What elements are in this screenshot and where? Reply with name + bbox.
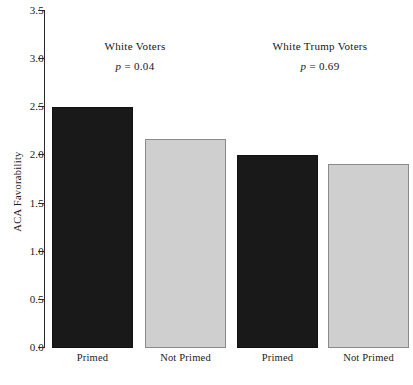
- group-pvalue-white-voters: p = 0.04: [75, 60, 195, 73]
- group-pvalue-white-trump-voters: p = 0.69: [255, 60, 385, 73]
- bar-white-trump-voters-primed: [237, 155, 318, 348]
- bar-label-white-trump-voters-primed: Primed: [237, 352, 318, 364]
- p-text-white-voters: = 0.04: [121, 60, 154, 72]
- bar-label-white-voters-primed: Primed: [52, 352, 133, 364]
- group-title-white-voters: White Voters: [75, 40, 195, 53]
- bar-label-white-voters-not-primed: Not Primed: [145, 352, 226, 364]
- p-text-white-trump-voters: = 0.69: [306, 60, 339, 72]
- aca-favorability-bar-chart: 3.5 3.0 2.5 2.0 1.5 1.0 0.5 0.0 ACA Favo…: [0, 0, 413, 385]
- bar-white-trump-voters-not-primed: [328, 164, 409, 348]
- bar-label-white-trump-voters-not-primed: Not Primed: [328, 352, 409, 364]
- bar-white-voters-not-primed: [145, 139, 226, 348]
- plot-area: Primed Not Primed Primed Not Primed: [0, 0, 413, 385]
- group-title-white-trump-voters: White Trump Voters: [255, 40, 385, 53]
- bar-white-voters-primed: [52, 107, 133, 348]
